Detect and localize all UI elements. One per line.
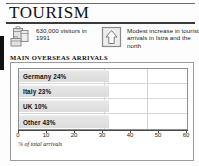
bar-rows: Germany 24%Italy 23%UK 10%Other 43%: [19, 69, 187, 129]
fact-visitors-text: 630,000 visitors in 1991: [36, 26, 99, 42]
page-edge-strip: [0, 36, 4, 70]
fact-increase: Modest increase in tourist arrivals in I…: [100, 26, 199, 49]
bar-row: Other 43%: [19, 114, 187, 129]
x-axis: [18, 130, 188, 131]
page-title: TOURISM: [9, 3, 89, 22]
bar-label: UK 10%: [23, 103, 47, 110]
luggage-icon: [9, 26, 32, 49]
bar-label: Italy 23%: [23, 88, 51, 95]
axis-tick-label: 50: [155, 132, 162, 138]
axis-tick-label: 40: [127, 132, 134, 138]
fact-visitors: 630,000 visitors in 1991: [9, 26, 99, 49]
axis-tick-label: 0: [16, 132, 19, 138]
axis-tick-label: 60: [183, 132, 190, 138]
chart-title: MAIN OVERSEAS ARRIVALS: [10, 54, 108, 61]
axis-tick-label: 10: [43, 132, 50, 138]
bar-row: Italy 23%: [19, 84, 187, 99]
chart-panel: Germany 24%Italy 23%UK 10%Other 43% 0102…: [10, 62, 194, 161]
fact-callouts: 630,000 visitors in 1991 Modest increase…: [6, 26, 196, 54]
bar-label: Other 43%: [23, 118, 56, 125]
axis-tick-label: 20: [71, 132, 78, 138]
infographic-page: TOURISM 630,000 visitors in 1991: [0, 0, 199, 166]
up-arrow-icon: [100, 26, 123, 49]
bar-label: Germany 24%: [23, 73, 66, 80]
chart-plot-area: Germany 24%Italy 23%UK 10%Other 43%: [18, 68, 188, 130]
x-axis-caption: % of total arrivals: [18, 141, 62, 147]
axis-tick-label: 30: [99, 132, 106, 138]
fact-increase-text: Modest increase in tourist arrivals in I…: [127, 26, 199, 49]
bar-row: UK 10%: [19, 99, 187, 114]
header-rule-bottom: [6, 22, 195, 24]
bar-row: Germany 24%: [19, 69, 187, 84]
